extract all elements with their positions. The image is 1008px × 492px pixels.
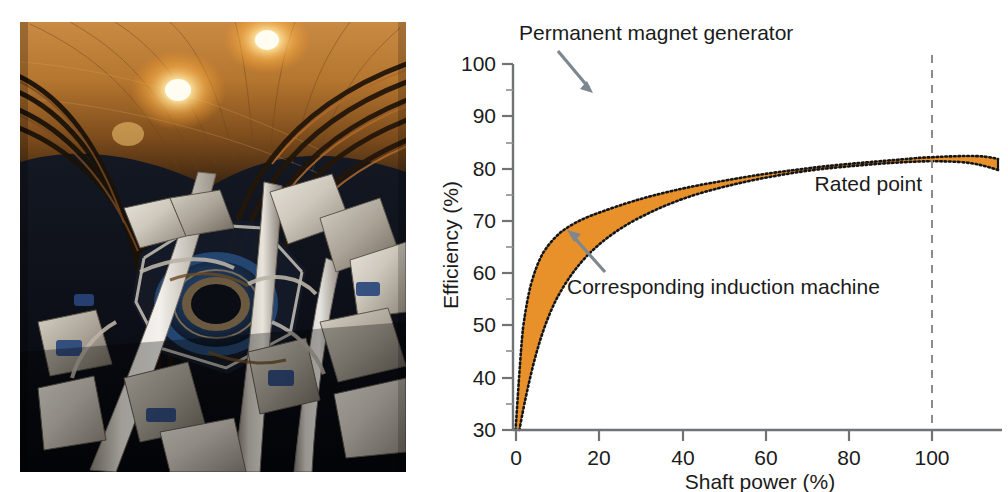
y-tick-label: 80: [473, 157, 496, 180]
y-tick-label: 90: [473, 104, 496, 127]
y-axis-tick-labels: 100 90 80 70 60 50 40 30: [461, 52, 496, 441]
generator-interior-photograph: [20, 22, 406, 472]
x-tick-label: 80: [837, 446, 860, 469]
figure-container: 100 90 80 70 60 50 40 30 0 20 40 60 80 1…: [0, 0, 1008, 492]
annotation-permanent-magnet-generator: Permanent magnet generator: [519, 21, 793, 44]
x-tick-label: 0: [510, 446, 522, 469]
y-tick-label: 100: [461, 52, 496, 75]
x-axis-title: Shaft power (%): [685, 470, 836, 492]
efficiency-chart: 100 90 80 70 60 50 40 30 0 20 40 60 80 1…: [430, 0, 1008, 492]
x-axis-tick-labels: 0 20 40 60 80 100: [510, 446, 949, 469]
annotation-corresponding-induction-machine: Corresponding induction machine: [567, 275, 880, 298]
y-tick-label: 60: [473, 261, 496, 284]
x-axis-major-ticks: [516, 430, 932, 441]
x-tick-label: 100: [914, 446, 949, 469]
y-tick-label: 50: [473, 313, 496, 336]
x-tick-label: 40: [671, 446, 694, 469]
chart-svg: 100 90 80 70 60 50 40 30 0 20 40 60 80 1…: [430, 0, 1008, 492]
annotation-arrow-permanent-magnet: [558, 51, 593, 93]
y-tick-label: 30: [473, 418, 496, 441]
x-tick-label: 60: [754, 446, 777, 469]
annotation-rated-point: Rated point: [815, 172, 923, 195]
photo-artwork: [20, 22, 406, 472]
y-axis-title: Efficiency (%): [439, 181, 462, 309]
y-tick-label: 70: [473, 209, 496, 232]
y-tick-label: 40: [473, 366, 496, 389]
x-tick-label: 20: [587, 446, 610, 469]
